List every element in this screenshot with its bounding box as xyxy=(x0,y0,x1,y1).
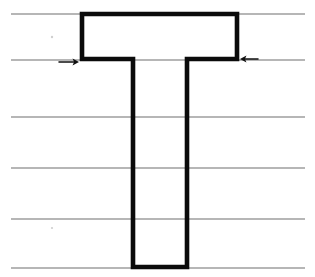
paper-speck-2 xyxy=(51,227,53,229)
worksheet-canvas xyxy=(0,0,315,277)
paper-speck-1 xyxy=(51,36,53,38)
paper-background xyxy=(0,0,315,277)
handwriting-worksheet: Letter T stroke-formation worksheet Bloc… xyxy=(0,0,315,277)
